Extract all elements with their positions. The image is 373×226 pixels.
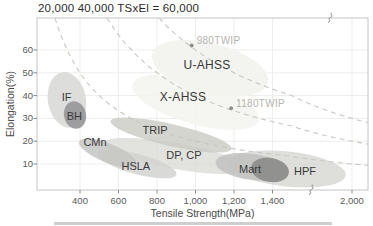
label-trip: TRIP — [143, 125, 168, 136]
label-dp-cp: DP, CP — [166, 150, 201, 161]
steel-strength-elongation-chart: 20,000 40,000 TSxEl = 60,000 Elongation(… — [0, 0, 373, 226]
label-bh: BH — [67, 111, 82, 122]
y-tick-40: 40 — [22, 91, 33, 101]
label-if: IF — [62, 91, 72, 102]
y-tick-10: 10 — [22, 159, 33, 169]
y-axis-title: Elongation(%) — [5, 38, 17, 170]
x-tick-1,400: 1,400 — [261, 196, 285, 206]
label-1180TWIP: 1180TWIP — [236, 99, 285, 109]
label-x-ahss: X-AHSS — [160, 91, 206, 103]
label-hsla: HSLA — [121, 161, 150, 172]
x-tick-800: 800 — [149, 196, 165, 206]
x-tick-2,000: 2,000 — [340, 196, 364, 206]
plot-canvas — [0, 0, 373, 226]
label-hpf: HPF — [294, 166, 316, 177]
y-tick-30: 30 — [22, 114, 33, 124]
x-axis-title: Tensile Strength(MPa) — [37, 207, 368, 219]
label-980TWIP: 980TWIP — [197, 36, 241, 46]
point-1180TWIP — [229, 106, 233, 110]
x-tick-400: 400 — [72, 196, 88, 206]
label-u-ahss: U-AHSS — [183, 59, 230, 71]
y-tick-60: 60 — [22, 45, 33, 55]
y-tick-20: 20 — [22, 136, 33, 146]
label-mart: Mart — [239, 164, 261, 175]
label-cmn: CMn — [83, 137, 106, 148]
x-tick-1,200: 1,200 — [222, 196, 246, 206]
x-tick-1,000: 1,000 — [184, 196, 208, 206]
x-tick-600: 600 — [111, 196, 127, 206]
y-tick-50: 50 — [22, 68, 33, 78]
page-divider-rule — [54, 222, 332, 225]
point-980TWIP — [190, 43, 194, 47]
